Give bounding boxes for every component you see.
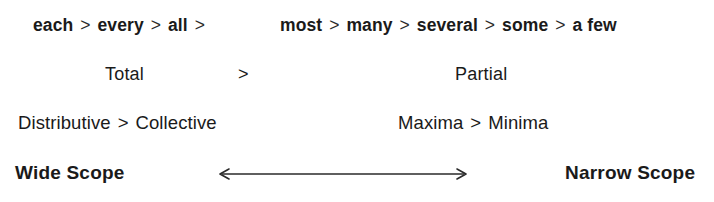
label-minima: Minima xyxy=(488,114,548,133)
quantifier-some: some xyxy=(502,17,548,35)
maxima-minima-group: Maxima > Minima xyxy=(398,114,548,133)
label-total: Total xyxy=(105,65,144,83)
label-narrow-scope: Narrow Scope xyxy=(565,163,695,182)
quantifier-several: several xyxy=(417,17,478,35)
greater-than-operator: > xyxy=(118,114,129,133)
label-distributive: Distributive xyxy=(18,114,111,133)
quantifier-many: many xyxy=(346,17,392,35)
double-headed-arrow-icon xyxy=(216,166,470,182)
weak-quantifier-group: most > many > several > some > a few xyxy=(280,17,617,35)
greater-than-operator: > xyxy=(400,17,410,35)
distributive-collective-group: Distributive > Collective xyxy=(18,114,217,133)
quantifier-scale-row: each > every > all > most > many > sever… xyxy=(0,8,714,42)
readings-row: Distributive > Collective Maxima > Minim… xyxy=(0,106,714,140)
scope-row: Wide Scope Narrow Scope xyxy=(0,155,714,189)
strong-quantifier-group: each > every > all > xyxy=(33,17,205,35)
label-partial: Partial xyxy=(455,65,507,83)
greater-than-operator: > xyxy=(485,17,495,35)
quantifier-scale-figure: each > every > all > most > many > sever… xyxy=(0,0,714,202)
quantifier-most: most xyxy=(280,17,322,35)
greater-than-operator: > xyxy=(80,17,90,35)
totality-row: Total > Partial xyxy=(0,57,714,91)
greater-than-operator: > xyxy=(555,17,565,35)
greater-than-operator: > xyxy=(238,65,249,83)
greater-than-operator: > xyxy=(470,114,481,133)
quantifier-each: each xyxy=(33,17,73,35)
greater-than-operator: > xyxy=(329,17,339,35)
label-wide-scope: Wide Scope xyxy=(15,163,125,182)
quantifier-every: every xyxy=(98,17,144,35)
label-collective: Collective xyxy=(136,114,217,133)
greater-than-operator: > xyxy=(151,17,161,35)
quantifier-all: all xyxy=(168,17,188,35)
label-maxima: Maxima xyxy=(398,114,463,133)
quantifier-a-few: a few xyxy=(572,17,616,35)
greater-than-operator: > xyxy=(195,17,205,35)
